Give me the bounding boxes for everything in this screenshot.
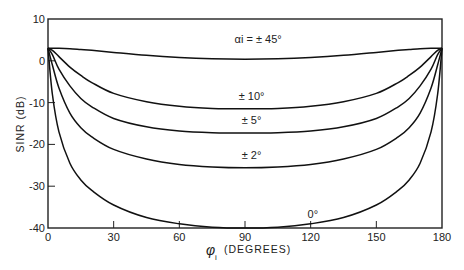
series-line-0 <box>48 48 442 59</box>
x-tick-label: 0 <box>45 231 51 243</box>
y-tick-label: 0 <box>39 55 45 67</box>
curve-label-4: 0° <box>308 208 319 220</box>
x-tick-label: 90 <box>239 231 251 243</box>
x-tick-label: 180 <box>433 231 451 243</box>
x-axis-title-text: (DEGREES) <box>224 243 291 255</box>
x-tick-label: 150 <box>367 231 385 243</box>
curve-label-1: ± 10° <box>239 90 265 102</box>
series-lines <box>48 48 442 228</box>
x-axis: 0306090120150180 <box>45 221 451 243</box>
y-axis-title: SINR (dB) <box>14 96 26 153</box>
x-axis-title: φ i (DEGREES) <box>206 242 291 262</box>
y-tick-label: -30 <box>29 180 45 192</box>
y-tick-label: -10 <box>29 97 45 109</box>
curve-label-3: ± 2° <box>242 149 262 161</box>
curve-annotations: αi = ± 45°± 10°± 5°± 2°0° <box>235 33 319 219</box>
curve-label-0: αi = ± 45° <box>235 33 282 45</box>
curve-label-2: ± 5° <box>242 114 262 126</box>
x-axis-title-subscript: i <box>215 253 218 262</box>
y-axis: 100-10-20-30-40 <box>29 13 55 234</box>
sinr-chart: 0306090120150180 100-10-20-30-40 αi = ± … <box>0 0 464 270</box>
x-tick-label: 60 <box>173 231 185 243</box>
y-tick-label: -20 <box>29 138 45 150</box>
y-tick-label: 10 <box>33 13 45 25</box>
y-tick-label: -40 <box>29 222 45 234</box>
x-tick-label: 120 <box>301 231 319 243</box>
series-line-4 <box>48 48 442 228</box>
x-tick-label: 30 <box>108 231 120 243</box>
